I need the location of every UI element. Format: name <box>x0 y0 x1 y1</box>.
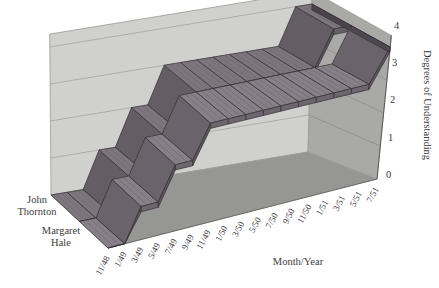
series-label-line: John <box>27 194 48 205</box>
x-tick-label: 7/51 <box>364 185 380 204</box>
x-tick-label: 5/51 <box>348 190 364 209</box>
x-tick-label: 11/50 <box>295 202 314 225</box>
x-tick-label: 1/49 <box>112 250 129 269</box>
x-tick-label: 9/49 <box>179 232 196 251</box>
x-tick-label: 5/49 <box>146 241 163 260</box>
chart-svg: 11/481/493/495/497/499/4911/491/503/505/… <box>0 0 439 288</box>
series-label-line: Hale <box>51 237 71 248</box>
x-tick-label: 11/48 <box>93 254 112 277</box>
y-tick-label: 1 <box>388 132 393 143</box>
x-tick-label: 7/49 <box>163 237 180 256</box>
y-tick-label: 4 <box>394 20 400 31</box>
x-tick-label: 3/50 <box>230 219 247 238</box>
y-tick-label: 2 <box>390 94 395 105</box>
x-tick-label: 3/49 <box>129 245 146 264</box>
x-tick-label: 1/50 <box>213 224 230 243</box>
x-axis-title: Month/Year <box>273 256 324 267</box>
x-tick-label: 1/51 <box>314 198 330 217</box>
x-tick-label: 3/51 <box>331 194 347 213</box>
y-tick-label: 0 <box>386 169 391 180</box>
series-label-line: Margaret <box>42 225 80 236</box>
x-tick-label: 9/50 <box>280 206 297 225</box>
x-tick-label: 11/49 <box>194 228 213 251</box>
y-axis-title: Degrees of Understanding <box>422 50 433 161</box>
series-label-line: Thornton <box>17 206 57 217</box>
chart-figure: 11/481/493/495/497/499/4911/491/503/505/… <box>0 0 439 288</box>
x-tick-label: 5/50 <box>247 215 264 234</box>
x-tick-label: 7/50 <box>264 211 281 230</box>
y-tick-label: 3 <box>392 57 397 68</box>
